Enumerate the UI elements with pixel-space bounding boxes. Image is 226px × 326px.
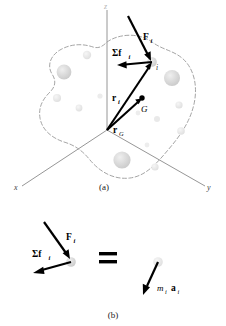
center-of-mass-dot bbox=[139, 95, 144, 100]
particle bbox=[154, 116, 160, 122]
particle bbox=[164, 70, 180, 86]
particle bbox=[136, 111, 141, 116]
label-sigma-f-i-main: Σf bbox=[112, 48, 122, 58]
particle bbox=[97, 93, 102, 98]
label-F-i: F i bbox=[143, 32, 153, 44]
particle bbox=[151, 163, 158, 170]
label-sigma-f-i-sub: i bbox=[129, 53, 131, 60]
panel-a: z x y F i Σf i r i r G bbox=[13, 2, 211, 192]
particle bbox=[57, 65, 72, 80]
vector-m-a bbox=[143, 262, 158, 295]
figure-root: z x y F i Σf i r i r G bbox=[0, 0, 226, 326]
particle bbox=[53, 94, 61, 102]
label-m-sub: i bbox=[165, 288, 167, 295]
label-r-i-sub: i bbox=[118, 98, 120, 105]
label-a-main: a bbox=[171, 283, 176, 293]
label-sigma-f-i: Σf i bbox=[112, 48, 131, 60]
label-r-G-main: r bbox=[113, 125, 118, 135]
label-particle-i: i bbox=[156, 63, 158, 72]
particle bbox=[83, 51, 91, 59]
label-F-i-main: F bbox=[143, 32, 149, 42]
label-sigma-f-i-panel-b-main: Σf bbox=[32, 249, 42, 259]
label-r-G: r G bbox=[113, 125, 124, 137]
panel-b: F i Σf i = m i bbox=[32, 222, 180, 320]
label-a-sub: i bbox=[178, 288, 180, 295]
label-m-main: m bbox=[157, 283, 164, 293]
caption-panel-b: (b) bbox=[108, 310, 119, 320]
label-F-i-panel-b-sub: i bbox=[74, 237, 76, 244]
caption-panel-a: (a) bbox=[99, 182, 109, 192]
vector-sigma-f-i-panel-b bbox=[33, 262, 71, 274]
label-r-G-sub: G bbox=[119, 130, 124, 137]
y-axis-label: y bbox=[206, 183, 211, 192]
label-m-a: m i a i bbox=[157, 283, 180, 295]
particle bbox=[145, 143, 150, 148]
z-axis-label: z bbox=[103, 2, 108, 11]
particle bbox=[76, 105, 83, 112]
physics-diagram: z x y F i Σf i r i r G bbox=[0, 0, 226, 326]
label-r-i: r i bbox=[112, 93, 120, 105]
label-F-i-sub: i bbox=[151, 37, 153, 44]
x-axis-label: x bbox=[13, 183, 18, 192]
label-F-i-panel-b: F i bbox=[66, 232, 76, 244]
particle bbox=[175, 101, 182, 108]
label-F-i-panel-b-main: F bbox=[66, 232, 72, 242]
particle bbox=[177, 127, 185, 135]
label-r-i-main: r bbox=[112, 93, 117, 103]
label-sigma-f-i-panel-b: Σf i bbox=[32, 249, 51, 261]
label-sigma-f-i-panel-b-sub: i bbox=[49, 254, 51, 261]
x-axis-line bbox=[22, 130, 107, 186]
label-center-of-mass: G bbox=[141, 104, 148, 114]
equals-sign bbox=[99, 252, 117, 263]
particle bbox=[113, 151, 130, 168]
